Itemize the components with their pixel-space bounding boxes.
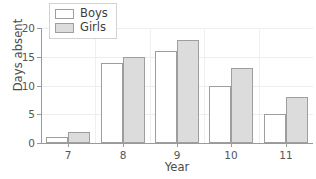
- bar-girls-year-7: [68, 132, 90, 144]
- legend-item-girls: Girls: [55, 21, 108, 35]
- bar-girls-year-10: [231, 68, 253, 143]
- y-tick-label: 15: [22, 51, 35, 63]
- x-axis-line: [41, 143, 313, 144]
- gridline-vertical: [259, 28, 260, 143]
- y-axis-line: [41, 28, 42, 143]
- y-tick-label: 5: [28, 108, 35, 120]
- gridline-vertical: [204, 28, 205, 143]
- x-axis-title: Year: [41, 160, 313, 174]
- gridline-vertical: [150, 28, 151, 143]
- chart-legend: BoysGirls: [49, 3, 117, 39]
- bar-girls-year-9: [177, 40, 199, 144]
- bar-girls-year-11: [286, 97, 308, 143]
- bar-girls-year-8: [123, 57, 145, 143]
- legend-item-boys: Boys: [55, 7, 108, 21]
- gridline-vertical: [95, 28, 96, 143]
- bar-boys-year-11: [264, 114, 286, 143]
- bar-boys-year-9: [155, 51, 177, 143]
- bar-boys-year-8: [101, 63, 123, 144]
- y-tick-label: 20: [22, 22, 35, 34]
- legend-label: Boys: [80, 8, 108, 20]
- bar-boys-year-10: [209, 86, 231, 144]
- legend-swatch-boys: [55, 9, 74, 19]
- legend-label: Girls: [80, 22, 106, 34]
- plot-area: 05101520 7891011: [41, 28, 313, 143]
- legend-swatch-girls: [55, 23, 74, 33]
- y-tick-label: 10: [22, 80, 35, 92]
- y-tick-label: 0: [28, 137, 35, 149]
- bar-chart: Days absent 05101520 7891011 Year BoysGi…: [0, 0, 316, 179]
